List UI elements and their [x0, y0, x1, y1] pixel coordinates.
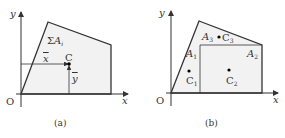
y-axis-label: y	[9, 8, 16, 19]
origin-label: O	[6, 96, 14, 107]
centroid-c3	[217, 35, 220, 38]
xbar-label: x	[43, 53, 49, 64]
panel-a: y x O ΣAi x y C (a)	[6, 8, 128, 128]
figure: y x O ΣAi x y C (a) y x O A1 A2 A3 C1 C2…	[0, 0, 285, 138]
centroid-c2	[227, 68, 230, 71]
ybar-label: y	[71, 73, 78, 84]
x-axis-label: x	[122, 95, 128, 106]
caption-a: (a)	[54, 118, 66, 128]
centroid-label: C	[65, 52, 73, 63]
x-axis-label: x	[273, 94, 279, 105]
centroid-c1	[187, 69, 190, 72]
origin-label: O	[156, 95, 164, 106]
panel-b: y x O A1 A2 A3 C1 C2 C3 (b)	[156, 7, 279, 128]
y-axis-label: y	[158, 7, 165, 18]
caption-b: (b)	[205, 118, 218, 128]
area-label: ΣAi	[47, 35, 63, 47]
